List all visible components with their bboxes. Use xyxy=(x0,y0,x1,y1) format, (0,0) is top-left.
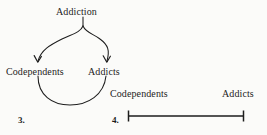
figure-number-3: 3. xyxy=(18,115,25,125)
codependents-label-fig3: Codependents xyxy=(6,66,64,77)
branch-right-arrowhead xyxy=(103,56,110,62)
branch-right-curve xyxy=(83,26,108,61)
addicts-label-fig4: Addicts xyxy=(222,88,254,99)
addicts-label-fig3: Addicts xyxy=(88,66,120,77)
figure-number-4: 4. xyxy=(112,115,119,125)
branch-left-curve xyxy=(38,26,83,61)
addiction-label: Addiction xyxy=(56,6,97,17)
branch-left-arrowhead xyxy=(34,56,41,63)
codependents-label-fig4: Codependents xyxy=(110,88,168,99)
cycle-return-arc xyxy=(38,76,106,105)
figure-page: Addiction Codependents Addicts 3. Codepe… xyxy=(0,0,267,135)
